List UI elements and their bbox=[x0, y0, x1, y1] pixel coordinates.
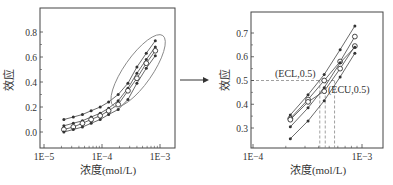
figure: 0.00.20.40.60.8 1E−51E−41E−3 效应 浓度(mol/L… bbox=[0, 0, 393, 185]
data-point bbox=[307, 93, 310, 96]
data-point bbox=[307, 119, 310, 122]
data-point-open bbox=[144, 61, 149, 66]
left-x-axis: 1E−51E−41E−3 bbox=[34, 144, 171, 162]
data-point bbox=[353, 52, 356, 55]
data-point bbox=[145, 52, 148, 55]
left-x-axis-label: 浓度(mol/L) bbox=[80, 163, 137, 177]
data-point bbox=[126, 98, 129, 101]
data-point bbox=[99, 118, 102, 121]
data-point bbox=[339, 48, 342, 51]
data-point-open bbox=[153, 48, 158, 53]
y-tick-label: 0.6 bbox=[25, 53, 37, 63]
x-tick-label: 1E−4 bbox=[92, 152, 113, 162]
data-point bbox=[99, 106, 102, 109]
data-point-open bbox=[98, 113, 103, 118]
right-x-axis-label: 浓度(mol/L) bbox=[290, 163, 347, 177]
data-point bbox=[145, 67, 148, 70]
data-point bbox=[307, 106, 310, 109]
data-point bbox=[353, 24, 356, 27]
data-point bbox=[62, 118, 65, 121]
y-tick-label: 0.5 bbox=[236, 76, 248, 86]
data-point bbox=[107, 101, 110, 104]
data-point bbox=[90, 109, 93, 112]
highlight-ellipse bbox=[102, 27, 174, 114]
data-point bbox=[323, 73, 326, 76]
data-point bbox=[117, 108, 120, 111]
x-tick-label: 1E−4 bbox=[243, 152, 264, 162]
arrow-head-icon bbox=[203, 77, 209, 83]
data-point bbox=[339, 61, 342, 64]
data-point-open bbox=[352, 34, 357, 39]
data-point bbox=[117, 93, 120, 96]
y-tick-label: 0.2 bbox=[25, 103, 37, 113]
data-point bbox=[81, 126, 84, 129]
data-point bbox=[289, 137, 292, 140]
data-point bbox=[72, 116, 75, 119]
y-tick-label: 0.8 bbox=[25, 28, 37, 38]
data-point bbox=[107, 113, 110, 116]
data-point bbox=[135, 72, 138, 75]
x-tick-label: 1E−3 bbox=[352, 152, 373, 162]
data-point bbox=[289, 125, 292, 128]
y-tick-label: 0.4 bbox=[236, 100, 248, 110]
series-line-mean bbox=[64, 51, 155, 130]
right-series-group bbox=[288, 24, 357, 140]
right-plot-frame bbox=[251, 12, 383, 148]
left-y-axis-label: 效应 bbox=[2, 69, 15, 91]
data-point bbox=[353, 46, 356, 49]
x-tick-label: 1E−3 bbox=[150, 152, 171, 162]
annotation-ecl: (ECL,0.5) bbox=[275, 68, 316, 80]
data-point-open bbox=[338, 66, 343, 71]
data-point-open bbox=[322, 78, 327, 83]
data-point bbox=[126, 82, 129, 85]
y-tick-label: 0.4 bbox=[25, 78, 37, 88]
y-tick-label: 0.0 bbox=[25, 128, 37, 138]
data-point bbox=[135, 66, 138, 69]
right-y-axis-label: 效应 bbox=[218, 69, 231, 91]
data-point bbox=[323, 99, 326, 102]
left-series-group bbox=[61, 39, 157, 133]
x-tick-label: 1E−5 bbox=[34, 152, 55, 162]
data-point-open bbox=[80, 121, 85, 126]
left-plot-frame bbox=[40, 8, 175, 148]
data-point bbox=[323, 86, 326, 89]
data-point bbox=[154, 54, 157, 57]
data-point bbox=[135, 82, 138, 85]
data-point bbox=[62, 131, 65, 134]
y-tick-label: 0.3 bbox=[236, 124, 248, 134]
right-x-axis: 1E−41E−3 bbox=[243, 144, 373, 162]
data-point bbox=[90, 122, 93, 125]
data-point-open bbox=[306, 99, 311, 104]
y-tick-label: 0.7 bbox=[236, 29, 248, 39]
arrow bbox=[180, 77, 209, 83]
data-point-open bbox=[106, 108, 111, 113]
y-tick-label: 0.6 bbox=[236, 52, 248, 62]
series-line-lower bbox=[64, 56, 155, 132]
annotation-ecu: (ECU,0.5) bbox=[328, 84, 370, 96]
data-point-open bbox=[89, 117, 94, 122]
data-point bbox=[72, 128, 75, 131]
series-line-lower bbox=[290, 53, 355, 139]
left-chart: 0.00.20.40.60.8 1E−51E−41E−3 效应 浓度(mol/L… bbox=[2, 8, 175, 177]
data-point-open bbox=[126, 88, 131, 93]
data-point bbox=[339, 75, 342, 78]
data-point bbox=[154, 39, 157, 42]
data-point bbox=[81, 113, 84, 116]
right-chart: 0.30.40.50.60.7 1E−41E−3 (ECL,0.5)(ECU,0… bbox=[218, 12, 383, 177]
data-point-open bbox=[288, 117, 293, 122]
figure-svg: 0.00.20.40.60.8 1E−51E−41E−3 效应 浓度(mol/L… bbox=[0, 0, 393, 185]
